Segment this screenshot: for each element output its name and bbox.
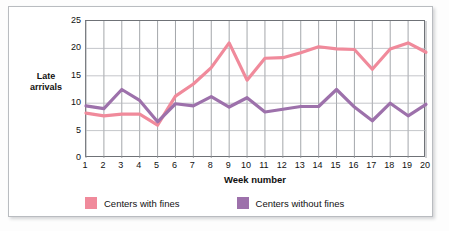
plot-area <box>85 20 425 157</box>
y-axis-tick: 20 <box>57 42 81 52</box>
x-axis-tick: 20 <box>415 160 435 170</box>
y-axis-tick-labels: 0510152025 <box>55 20 81 157</box>
chart-screenshot: Late arrivals 0510152025 123456789101112… <box>0 0 449 231</box>
legend-swatch-without-fines <box>237 197 249 209</box>
series-line <box>86 90 426 122</box>
chart-legend: Centers with fines Centers without fines <box>85 195 415 211</box>
series-line <box>86 43 426 125</box>
legend-swatch-with-fines <box>85 197 97 209</box>
x-axis-title: Week number <box>85 174 425 185</box>
legend-item-centers-without-fines: Centers without fines <box>237 197 345 209</box>
legend-item-centers-with-fines: Centers with fines <box>85 197 180 209</box>
y-axis-tick: 15 <box>57 70 81 80</box>
y-axis-tick: 5 <box>57 125 81 135</box>
x-axis-tick-labels: 1234567891011121314151617181920 <box>85 160 425 173</box>
series-lines <box>86 21 426 158</box>
y-axis-tick: 25 <box>57 15 81 25</box>
y-axis-tick: 10 <box>57 97 81 107</box>
legend-label-without-fines: Centers without fines <box>256 198 345 209</box>
legend-label-with-fines: Centers with fines <box>104 198 180 209</box>
